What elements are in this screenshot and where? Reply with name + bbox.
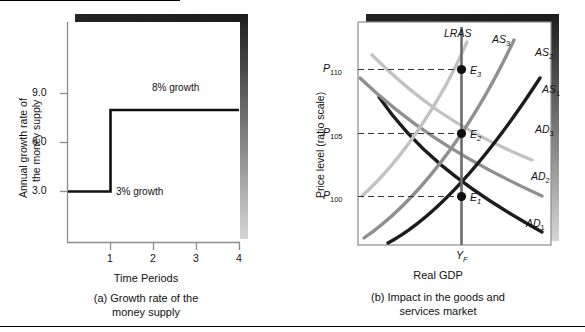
panel-b-label-as3: AS3 xyxy=(492,33,510,48)
panel-a-ytick-label-9: 9.0 xyxy=(32,86,47,98)
panel-b-caption-line2: services market xyxy=(292,305,584,319)
panel-b-label-as1: AS1 xyxy=(542,83,560,98)
panel-b-ytick-label-p110: P110 xyxy=(323,62,342,77)
panel-b-label-e1: E1 xyxy=(470,191,481,206)
panel-b-shadow-top xyxy=(366,14,559,22)
bottom-rule xyxy=(0,326,585,327)
panel-b-equilibrium-dot-e3 xyxy=(457,65,466,74)
panel-a-shadow-top xyxy=(75,14,240,22)
panel-a-annotation-3pct: 3% growth xyxy=(116,186,163,197)
panel-b-label-ad1: AD1 xyxy=(526,217,545,232)
panel-a-plot-bg xyxy=(67,22,240,243)
panel-b-label-ad3: AD3 xyxy=(535,123,554,138)
panel-b-equilibrium-dot-e2 xyxy=(457,129,466,138)
panel-a-annotation-8pct: 8% growth xyxy=(152,82,199,93)
panel-b-ad-as-market: LRAS AS3 AS2 AS1 AD3 AD2 AD1 E3 E2 E1 P1… xyxy=(292,0,584,332)
panel-a-growth-rate: 9.0 6.0 3.0 1 2 3 4 Annual growth rate o… xyxy=(0,0,292,332)
panel-b-label-ad2: AD2 xyxy=(531,170,550,185)
panel-a-y-axis-label-line2: the money supply xyxy=(30,100,43,182)
panel-b-plot-frame xyxy=(358,22,551,245)
panel-a-y-axis-label-line1: Annual growth rate of xyxy=(17,98,30,198)
panel-b-caption-line1: (b) Impact in the goods and xyxy=(292,291,584,305)
panel-a-caption-line2: money supply xyxy=(0,306,292,320)
panel-a-x-axis-title: Time Periods xyxy=(0,272,292,286)
panel-a-caption-line1: (a) Growth rate of the xyxy=(0,292,292,306)
panel-b-equilibrium-dot-e1 xyxy=(457,192,466,201)
panel-b-label-lras: LRAS xyxy=(444,27,471,39)
panel-b-label-e3: E3 xyxy=(470,64,481,79)
panel-b-label-as2: AS2 xyxy=(535,46,553,61)
panel-a-shadow-right xyxy=(240,14,248,239)
panel-b-xtick-label-yf: YF xyxy=(456,249,468,264)
panel-b-x-axis-title: Real GDP xyxy=(292,269,584,283)
panel-b-y-axis-label: Price level (ratio scale) xyxy=(314,92,327,198)
panel-a-xtick-label-4: 4 xyxy=(236,252,242,264)
panel-a-ytick-label-3: 3.0 xyxy=(32,184,47,196)
panel-b-label-e2: E2 xyxy=(470,128,481,143)
panel-a-xtick-label-2: 2 xyxy=(150,252,156,264)
figure-container: 9.0 6.0 3.0 1 2 3 4 Annual growth rate o… xyxy=(0,0,585,332)
panel-a-xtick-label-3: 3 xyxy=(193,252,199,264)
panel-a-xtick-label-1: 1 xyxy=(107,252,113,264)
